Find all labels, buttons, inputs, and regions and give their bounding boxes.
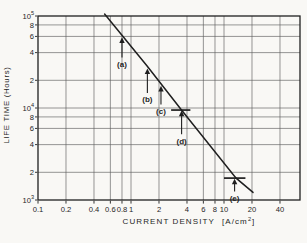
x-tick-label-0.2: 0.2 bbox=[61, 205, 72, 214]
x-tick-label-4: 4 bbox=[185, 205, 189, 214]
x-tick-label-8: 8 bbox=[213, 205, 217, 214]
annotation-e-arrowhead bbox=[232, 179, 237, 185]
x-tick-label-0.4: 0.4 bbox=[89, 205, 100, 214]
annotation-e: (e) bbox=[224, 178, 245, 203]
x-tick-label-40: 40 bbox=[276, 205, 284, 214]
annotation-d-label: (d) bbox=[176, 137, 187, 146]
grid-lines bbox=[38, 16, 300, 200]
x-tick-label-20: 20 bbox=[248, 205, 256, 214]
life-time-vs-current-density-line bbox=[105, 14, 253, 192]
y-tick-label-8: 8 bbox=[30, 21, 34, 30]
x-tick-label-1: 1 bbox=[129, 205, 133, 214]
annotation-e-label: (e) bbox=[230, 194, 240, 203]
x-tick-label-2: 2 bbox=[157, 205, 161, 214]
x-tick-label-0.1: 0.1 bbox=[33, 205, 44, 214]
annotation-b-label: (b) bbox=[142, 95, 153, 104]
y-tick-label-8: 8 bbox=[30, 113, 34, 122]
y-axis-title: LIFE TIME (Hours) bbox=[2, 66, 11, 143]
x-tick-label-0.6: 0.6 bbox=[105, 205, 116, 214]
x-tick-label-10: 10 bbox=[220, 205, 228, 214]
annotation-a: (a) bbox=[117, 37, 127, 69]
y-tick-label-103: 103 bbox=[22, 194, 34, 205]
y-tick-label-6: 6 bbox=[30, 32, 34, 41]
figure-page: 0.10.20.40.60.81246810204010586421048642… bbox=[0, 0, 307, 243]
y-tick-label-4: 4 bbox=[30, 48, 34, 57]
annotation-c: (c) bbox=[156, 86, 166, 116]
y-tick-label-4: 4 bbox=[30, 140, 34, 149]
annotation-a-label: (a) bbox=[117, 60, 127, 69]
life-time-chart: 0.10.20.40.60.81246810204010586421048642… bbox=[0, 0, 307, 243]
y-tick-label-105: 105 bbox=[22, 10, 34, 21]
annotation-b: (b) bbox=[142, 68, 153, 104]
annotation-c-label: (c) bbox=[156, 107, 166, 116]
annotation-d: (d) bbox=[171, 110, 190, 146]
x-axis-title: CURRENT DENSITY[A/cm2] bbox=[123, 216, 256, 226]
x-tick-label-6: 6 bbox=[201, 205, 205, 214]
x-tick-label-0.8: 0.8 bbox=[117, 205, 128, 214]
y-tick-label-2: 2 bbox=[30, 168, 34, 177]
y-tick-label-6: 6 bbox=[30, 124, 34, 133]
y-tick-label-104: 104 bbox=[22, 102, 34, 113]
y-tick-label-2: 2 bbox=[30, 76, 34, 85]
